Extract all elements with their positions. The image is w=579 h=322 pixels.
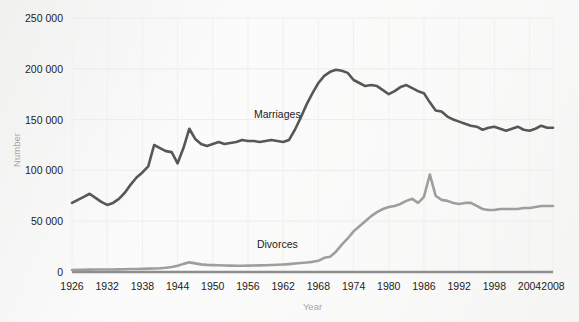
y-axis-title: Number [11, 133, 22, 167]
x-tick-label: 1974 [342, 280, 366, 292]
x-tick-label: 1992 [447, 280, 471, 292]
y-axis-tick-labels: 050 000100 000150 000200 000250 000 [25, 12, 63, 278]
line-chart: 050 000100 000150 000200 000250 000 1926… [0, 0, 579, 322]
series-label-marriages: Marriages [254, 108, 301, 120]
y-tick-label: 100 000 [25, 164, 63, 176]
x-axis-tick-labels: 1926193219381944195019561962196819741980… [60, 280, 565, 292]
x-tick-label: 1962 [271, 280, 295, 292]
x-tick-label: 1926 [60, 280, 84, 292]
y-tick-label: 250 000 [25, 12, 63, 24]
y-tick-label: 50 000 [31, 215, 63, 227]
x-tick-label: 1932 [96, 280, 120, 292]
x-tick-label: 1938 [131, 280, 155, 292]
x-axis-title: Year [303, 301, 322, 312]
x-tick-label: 1950 [201, 280, 225, 292]
y-tick-label: 0 [57, 266, 63, 278]
series-line-divorces [72, 174, 553, 270]
y-tick-label: 150 000 [25, 114, 63, 126]
series-annotations: MarriagesDivorces [254, 108, 301, 250]
y-tick-label: 200 000 [25, 63, 63, 75]
gridlines-vertical [72, 18, 553, 272]
data-series-lines [72, 70, 553, 270]
series-label-divorces: Divorces [257, 238, 298, 250]
x-tick-label: 1986 [412, 280, 436, 292]
x-tick-label: 1968 [307, 280, 331, 292]
series-line-marriages [72, 70, 553, 205]
x-tick-label: 2008 [541, 280, 565, 292]
x-tick-label: 2004 [518, 280, 542, 292]
x-tick-label: 1956 [236, 280, 260, 292]
x-tick-label: 1998 [483, 280, 507, 292]
chart-page: 050 000100 000150 000200 000250 000 1926… [0, 0, 579, 322]
x-tick-label: 1944 [166, 280, 190, 292]
x-tick-label: 1980 [377, 280, 401, 292]
gridlines-horizontal [72, 18, 553, 221]
